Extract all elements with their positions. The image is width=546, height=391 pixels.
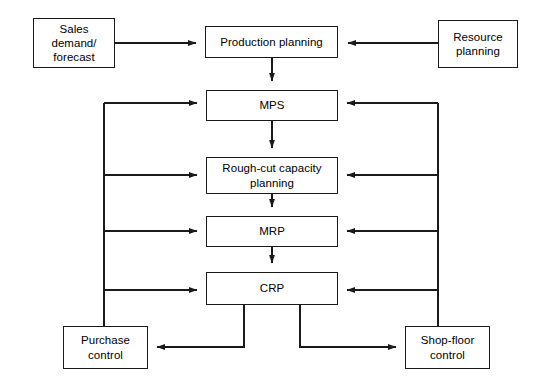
node-label: Rough-cut capacity planning — [207, 161, 337, 189]
edge-crp-to-shop-floor-control — [300, 305, 396, 347]
node-label: Production planning — [206, 35, 337, 49]
node-label: CRP — [207, 281, 337, 295]
flowchart-diagram: Sales demand/ forecast Production planni… — [0, 0, 546, 391]
node-shop-floor-control: Shop-floor control — [405, 326, 490, 369]
node-sales-demand-forecast: Sales demand/ forecast — [33, 18, 115, 68]
node-mps: MPS — [206, 90, 338, 121]
node-label: Resource planning — [439, 30, 517, 58]
node-crp: CRP — [206, 272, 338, 305]
node-label: MRP — [207, 224, 337, 238]
node-mrp: MRP — [206, 216, 338, 247]
node-purchase-control: Purchase control — [63, 326, 148, 369]
node-label: Purchase control — [64, 333, 147, 361]
edge-crp-to-purchase-control — [157, 305, 244, 347]
node-label: MPS — [207, 98, 337, 112]
node-label: Shop-floor control — [406, 333, 489, 361]
node-production-planning: Production planning — [205, 26, 338, 58]
node-label: Sales demand/ forecast — [34, 22, 114, 64]
node-rough-cut-capacity-planning: Rough-cut capacity planning — [206, 157, 338, 194]
node-resource-planning: Resource planning — [438, 20, 518, 68]
